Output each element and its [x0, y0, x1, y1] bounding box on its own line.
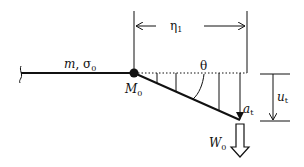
span-label: η1 — [170, 19, 182, 34]
break-symbol — [20, 66, 22, 83]
tip-displacement-label: ut — [277, 90, 289, 105]
deflected-segment — [134, 73, 240, 120]
hinge-node — [130, 69, 139, 78]
load-arrow-icon — [231, 124, 249, 157]
load-label: W0 — [209, 136, 226, 152]
angle-label: θ — [200, 59, 207, 73]
deflection-label: at — [243, 102, 254, 117]
angle-arc — [193, 74, 204, 99]
beam-deflection-diagram: m, σ0 M0 η1 θ at ut W0 — [0, 0, 304, 167]
node-label: M0 — [124, 82, 142, 98]
beam-properties-label: m, σ0 — [64, 57, 96, 73]
